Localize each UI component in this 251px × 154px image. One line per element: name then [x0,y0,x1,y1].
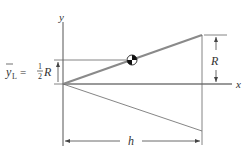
y-axis-label: y [58,11,64,23]
centroid-icon [127,55,137,65]
svg-text:y: y [5,65,12,79]
x-axis-label: x [235,78,241,90]
svg-text:L: L [12,72,17,81]
centroid-formula: y L = 1 2 R [5,62,52,81]
radius-label: R [210,54,219,68]
cone-lower-line [63,84,202,131]
cone-diagram: y x R y L = 1 2 R h [0,0,251,154]
svg-text:1: 1 [38,62,42,71]
height-label: h [128,134,134,148]
svg-text:R: R [43,65,52,79]
svg-text:2: 2 [38,72,42,81]
svg-text:=: = [20,66,26,78]
